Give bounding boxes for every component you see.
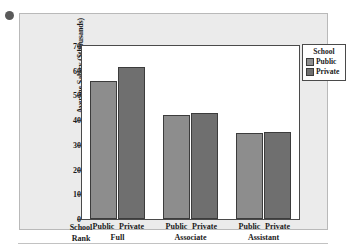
legend-item-private[interactable]: Private (306, 67, 342, 76)
legend-swatch-private (306, 68, 314, 76)
x-series-label: Private (192, 222, 217, 231)
chart-card: Average Salary ($thousands) 010203040506… (19, 13, 328, 230)
x-series-label: Private (265, 222, 290, 231)
x-series-label: Private (119, 222, 144, 231)
legend-label-public: Public (316, 57, 336, 66)
x-group-label: Full (111, 233, 125, 242)
x-series-label: Public (166, 222, 188, 231)
y-axis-ticks: 010203040506070 (60, 45, 81, 220)
legend: School Public Private (302, 44, 346, 81)
bars-layer (81, 45, 300, 220)
bar-public-full[interactable] (90, 81, 117, 219)
legend-item-public[interactable]: Public (306, 57, 342, 66)
legend-title: School (306, 47, 342, 56)
bar-private-associate[interactable] (191, 113, 218, 219)
bar-public-associate[interactable] (163, 115, 190, 219)
x-axis-labels: School Rank PublicPrivateFullPublicPriva… (39, 221, 301, 245)
bar-public-assistant[interactable] (236, 133, 263, 220)
x-series-label: Public (93, 222, 115, 231)
bullet-dot-icon (5, 11, 14, 20)
legend-label-private: Private (316, 67, 339, 76)
x-group-label: Associate (175, 233, 207, 242)
legend-swatch-public (306, 58, 314, 66)
bar-private-full[interactable] (118, 67, 145, 219)
x-series-label: Public (239, 222, 261, 231)
bar-private-assistant[interactable] (264, 132, 291, 219)
bottom-divider (18, 243, 328, 244)
x-group-label: Assistant (248, 233, 279, 242)
